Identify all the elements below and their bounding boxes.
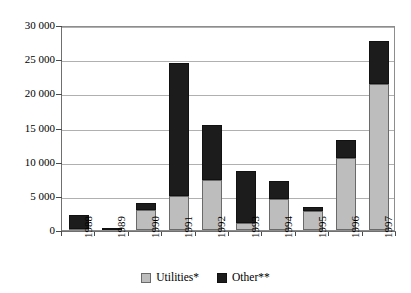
x-axis-tick [128,232,129,236]
plot-area [61,26,395,231]
legend-swatch-other-icon [217,273,227,283]
x-axis-tick [395,232,396,236]
y-axis-tick-label: 20 000 [3,88,55,99]
x-axis-tick [261,232,262,236]
gridline [62,61,394,62]
y-axis-tick [56,94,62,95]
bar-1991 [169,63,189,230]
y-axis-tick [56,26,62,27]
bar-segment-other-1991 [169,63,189,196]
legend-entry-utilities: Utilities* [141,272,199,283]
bar-1992 [202,125,222,230]
x-axis-tick-label-1992: 1992 [216,216,227,238]
x-axis-tick [295,232,296,236]
x-axis-tick-label-1988: 1988 [83,216,94,238]
y-axis-tick-label: 10 000 [3,157,55,168]
y-axis-tick [56,60,62,61]
y-axis-labels: 05 00010 00015 00020 00025 00030 000 [0,0,55,293]
x-axis-tick [228,232,229,236]
bar-segment-other-1994 [269,181,289,199]
x-axis-tick [161,232,162,236]
bar-segment-other-1990 [136,203,156,210]
x-axis-tick-label-1997: 1997 [383,216,394,238]
chart-title [0,0,411,7]
bar-1997 [369,41,389,230]
y-axis-tick-label: 15 000 [3,123,55,134]
gridline [62,95,394,96]
x-axis-tick [195,232,196,236]
bar-segment-other-1997 [369,41,389,85]
y-axis-tick-label: 0 [3,225,55,236]
x-axis-tick-label-1990: 1990 [150,216,161,238]
y-axis-tick-label: 5 000 [3,191,55,202]
legend-entry-other: Other** [217,272,270,283]
x-axis-tick [61,232,62,236]
legend-swatch-utilities-icon [141,273,151,283]
gridline [62,130,394,131]
y-axis-tick-label: 25 000 [3,54,55,65]
chart-legend: Utilities*Other** [0,272,411,283]
bar-segment-utilities-1997 [369,84,389,230]
bar-segment-other-1995 [303,207,323,211]
x-axis-tick-label-1994: 1994 [283,216,294,238]
x-axis-tick [362,232,363,236]
x-axis-tick [94,232,95,236]
y-axis-tick [56,129,62,130]
y-axis-tick [56,163,62,164]
bar-segment-other-1996 [336,140,356,158]
gridline [62,27,394,28]
x-axis-tick-label-1991: 1991 [183,216,194,238]
bar-segment-other-1992 [202,125,222,180]
legend-label-utilities: Utilities* [156,272,199,283]
x-axis-tick-label-1995: 1995 [317,216,328,238]
legend-label-other: Other** [232,272,270,283]
x-axis-tick-label-1989: 1989 [116,216,127,238]
y-axis-tick-label: 30 000 [3,20,55,31]
stacked-bar-chart-figure: 05 00010 00015 00020 00025 00030 000 Uti… [0,0,411,293]
x-axis-tick-label-1996: 1996 [350,216,361,238]
x-axis-tick-label-1993: 1993 [250,216,261,238]
y-axis-tick [56,197,62,198]
x-axis-tick [328,232,329,236]
